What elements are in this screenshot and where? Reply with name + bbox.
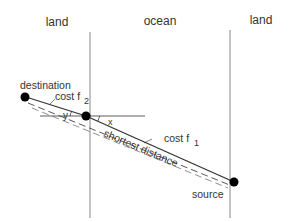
cost-f1-label: cost f	[164, 132, 189, 144]
region-label-left-land: land	[46, 15, 69, 29]
region-label-ocean: ocean	[144, 14, 177, 28]
region-label-right-land: land	[250, 13, 273, 27]
destination-point	[21, 93, 30, 102]
source-point	[230, 178, 239, 187]
refraction-diagram: land ocean land y x destination source c…	[0, 0, 295, 222]
cost-f1-subscript: 1	[194, 138, 199, 148]
crossing-point	[82, 112, 91, 121]
cost-f2-subscript: 2	[84, 96, 89, 106]
angle-y-label: y	[63, 110, 68, 121]
source-label: source	[192, 188, 224, 200]
angle-x-label: x	[108, 117, 113, 127]
angle-x-arc	[98, 116, 100, 121]
cost-f2-label: cost f	[55, 90, 80, 102]
